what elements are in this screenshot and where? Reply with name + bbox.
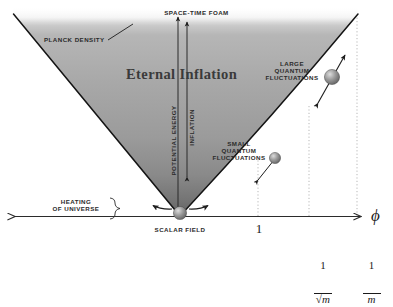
heating-brace (110, 198, 120, 219)
inflation-label: INFLATION (189, 99, 196, 155)
phi-axis-label: ϕ (371, 206, 380, 225)
planck-density-label: PLANCK DENSITY (44, 37, 105, 44)
fraction-inv-sqrt-m: 1 √m (314, 238, 332, 307)
large-quantum-fluctuations-label: LARGE QUANTUM FLUCTUATIONS (259, 61, 325, 82)
tick-label-inv-m: 1 m (346, 220, 368, 307)
fraction-denominator: √m (314, 293, 332, 305)
fraction-inv-m: 1 m (363, 238, 381, 307)
vertex-ball (173, 206, 186, 219)
fraction-denominator: m (363, 293, 381, 305)
potential-energy-label: POTENTIAL ENERGY (171, 92, 178, 188)
small-quantum-fluctuations-label: SMALL QUANTUM FLUCTUATIONS (206, 141, 272, 162)
fraction-numerator: 1 (363, 260, 381, 271)
scalar-field-label: SCALAR FIELD (138, 227, 222, 234)
tick-label-inv-sqrt-m: 1 √m (297, 220, 321, 307)
page-title: Eternal Inflation (126, 66, 237, 82)
tick-label-1: 1 (252, 222, 266, 237)
space-time-foam-label: SPACE-TIME FOAM (0, 10, 393, 17)
heating-of-universe-label: HEATING OF UNIVERSE (44, 199, 108, 213)
vertex-rock-arrow-right (189, 206, 208, 210)
vertex-rock-arrow-left (153, 206, 172, 210)
large-fluctuation-ball (324, 69, 339, 84)
fraction-numerator: 1 (314, 260, 332, 271)
